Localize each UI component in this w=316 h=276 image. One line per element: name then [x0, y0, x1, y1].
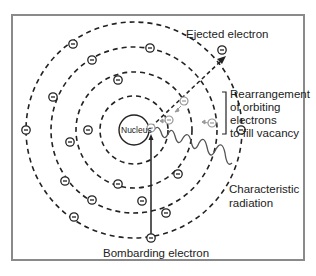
characteristic-radiation-label-2: radiation: [229, 197, 273, 210]
rearrangement-label-4: to fill vacancy: [230, 127, 299, 140]
ejected-path: [151, 60, 222, 127]
rearrangement-bracket: [222, 92, 226, 134]
characteristic-radiation-label-1: Characteristic: [229, 183, 299, 196]
ejected-electron-label: Ejected electron: [186, 28, 268, 41]
rearrangement-label-3: electrons: [230, 114, 277, 127]
rearranging-electrons: [147, 97, 216, 132]
rearrangement-label-1: Rearrangement: [230, 88, 310, 101]
nucleus-label: Nucleus: [121, 124, 152, 137]
bombarding-electron-label: Bombarding electron: [103, 247, 209, 260]
characteristic-radiation-wave: [154, 127, 232, 164]
rearrangement-label-2: of orbiting: [230, 101, 281, 114]
